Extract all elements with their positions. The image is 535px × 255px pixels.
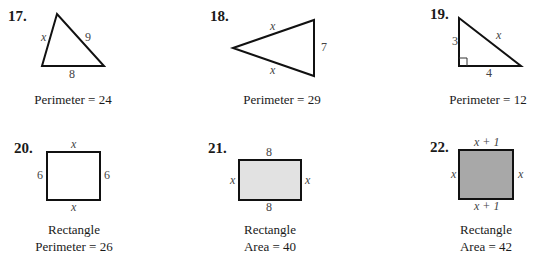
problem-number-21: 21. xyxy=(208,140,227,157)
problem-number-22: 22. xyxy=(430,139,449,156)
side-label-left: x xyxy=(451,167,456,182)
side-label-right: x xyxy=(518,167,523,182)
triangle-17 xyxy=(42,14,104,66)
caption: Perimeter = 24 xyxy=(3,92,143,108)
side-label-bottom: 8 xyxy=(266,200,272,215)
side-label-bottom: 4 xyxy=(486,66,492,81)
side-label-left: 3 xyxy=(452,34,458,49)
side-label-bottom: x + 1 xyxy=(474,199,499,214)
caption-shape: Rectangle xyxy=(416,222,535,238)
caption-value: Perimeter = 26 xyxy=(4,239,144,255)
problem-number-20: 20. xyxy=(14,140,33,157)
side-label-left: x xyxy=(41,30,46,45)
rectangle-20 xyxy=(47,152,100,200)
side-label-hypotenuse: x xyxy=(496,28,501,43)
side-label-top: x xyxy=(71,137,76,152)
caption-shape: Rectangle xyxy=(200,222,340,238)
rectangle-22 xyxy=(459,150,513,199)
side-label-bottom: x xyxy=(270,63,275,78)
side-label-right: x xyxy=(305,173,310,188)
caption-shape: Rectangle xyxy=(4,222,144,238)
problem-number-18: 18. xyxy=(210,8,229,25)
side-label-right: 6 xyxy=(104,168,110,183)
rectangle-21 xyxy=(239,160,301,200)
side-label-top: 8 xyxy=(266,145,272,160)
side-label-top: x xyxy=(270,19,275,34)
caption-value: Area = 40 xyxy=(200,239,340,255)
caption-value: Area = 42 xyxy=(416,239,535,255)
triangle-19 xyxy=(459,18,521,66)
side-label-right: 9 xyxy=(85,30,91,45)
caption: Perimeter = 12 xyxy=(418,92,535,108)
side-label-right: 7 xyxy=(321,40,327,55)
problem-number-17: 17. xyxy=(8,8,27,25)
side-label-bottom: 8 xyxy=(69,67,75,82)
side-label-top: x + 1 xyxy=(474,135,499,150)
side-label-left: x xyxy=(230,173,235,188)
problem-number-19: 19. xyxy=(430,6,449,23)
right-angle-marker xyxy=(459,58,467,66)
caption: Perimeter = 29 xyxy=(212,92,352,108)
side-label-left: 6 xyxy=(37,168,43,183)
side-label-bottom: x xyxy=(71,200,76,215)
